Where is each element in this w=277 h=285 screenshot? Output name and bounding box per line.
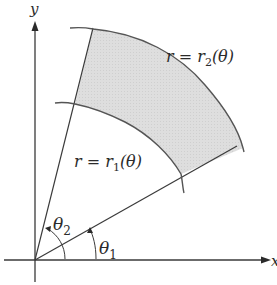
theta1-symbol: θ <box>99 238 109 258</box>
y-axis-label: y <box>29 0 39 18</box>
theta1-label: θ1 <box>99 238 117 262</box>
theta2-label: θ2 <box>53 214 71 238</box>
x-axis-label: x <box>271 252 277 270</box>
inner-curve-label-prefix: r = r <box>74 152 114 171</box>
theta1-sub: 1 <box>109 248 117 262</box>
x-axis-arrow-icon <box>261 257 271 264</box>
outer-curve-label-prefix: r = r <box>166 47 206 66</box>
outer-curve-label-sub: 2 <box>205 56 212 69</box>
theta1-arc <box>90 229 96 259</box>
outer-curve-label: r = r2(θ) <box>166 47 234 69</box>
outer-curve-label-suffix: (θ) <box>212 47 234 66</box>
theta2-symbol: θ <box>53 214 63 234</box>
theta2-sub: 2 <box>63 224 71 238</box>
inner-curve-label-suffix: (θ) <box>120 152 142 171</box>
theta2-arrow-icon <box>45 226 51 232</box>
inner-curve-label-sub: 1 <box>113 161 120 174</box>
polar-region-diagram: y x r = r2(θ) r = r1(θ) θ2 θ1 <box>0 0 277 285</box>
y-axis-arrow-icon <box>32 21 39 31</box>
inner-curve-label: r = r1(θ) <box>74 152 142 174</box>
